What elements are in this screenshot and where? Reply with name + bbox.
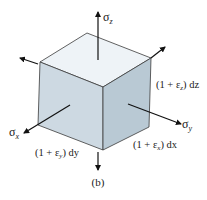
sigma-x-opposite-arrow: [20, 58, 38, 64]
sigma-y-opposite-arrow: [151, 47, 165, 58]
sigma-x-label: σx: [9, 125, 19, 141]
dy-label: (1 + εy) dy: [35, 147, 80, 160]
sigma-y-label: σy: [182, 117, 192, 133]
sigma-z-label: σz: [103, 10, 113, 26]
dz-label: (1 + εz) dz: [156, 79, 199, 92]
figure-caption: (b): [92, 176, 105, 189]
dx-label: (1 + εx) dx: [133, 139, 178, 152]
strain-cube-diagram: σz σx σy (1 + εz) dz (1 + εy) dy (1 + εx…: [0, 0, 207, 200]
